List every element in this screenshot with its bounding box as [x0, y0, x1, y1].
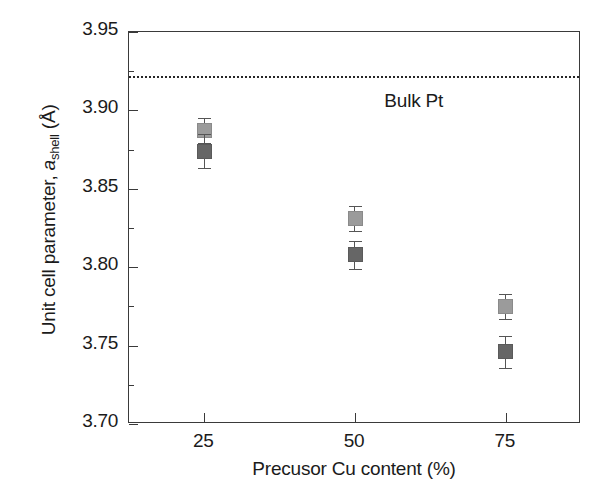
y-tick-major [129, 424, 138, 425]
x-tick-major [204, 413, 205, 422]
y-axis-title-suffix: (Å) [38, 104, 59, 134]
x-tick-major [506, 413, 507, 422]
y-axis-title-prefix: Unit cell parameter, [38, 170, 59, 335]
y-tick-minor [129, 228, 134, 229]
error-cap-lower [349, 269, 362, 270]
error-cap-lower [198, 168, 211, 169]
x-tick-label-50: 50 [319, 430, 389, 452]
error-cap-upper [198, 118, 211, 119]
plot-area: Bulk Pt [128, 31, 580, 423]
marker-square-light [498, 299, 513, 314]
error-cap-lower [349, 231, 362, 232]
error-cap-upper [198, 134, 211, 135]
figure-canvas: 3.95 3.90 3.85 3.80 3.75 3.70 25 50 75 P… [0, 0, 602, 498]
y-tick-major [129, 267, 138, 268]
marker-square-light [348, 211, 363, 226]
y-axis-title-subscript: shell [47, 134, 62, 160]
error-cap-upper [499, 336, 512, 337]
marker-square-dark [348, 247, 363, 262]
y-tick-minor [129, 306, 134, 307]
bulk-pt-label: Bulk Pt [384, 90, 443, 112]
y-axis-title-symbol: a [38, 160, 59, 170]
error-cap-upper [499, 294, 512, 295]
error-cap-upper [349, 206, 362, 207]
x-axis-title: Precusor Cu content (%) [128, 458, 580, 480]
marker-square-dark [498, 344, 513, 359]
marker-square-dark [197, 144, 212, 159]
x-tick-label-25: 25 [168, 430, 238, 452]
x-tick-label-75: 75 [470, 430, 540, 452]
y-tick-major [129, 32, 138, 33]
error-cap-lower [499, 319, 512, 320]
y-axis-title: Unit cell parameter, ashell (Å) [38, 10, 62, 430]
y-tick-major [129, 110, 138, 111]
y-tick-major [129, 346, 138, 347]
y-tick-minor [129, 150, 134, 151]
y-tick-minor [129, 71, 134, 72]
error-cap-upper [349, 241, 362, 242]
x-tick-major [355, 413, 356, 422]
y-tick-minor [129, 385, 134, 386]
error-cap-lower [499, 368, 512, 369]
y-tick-major [129, 189, 138, 190]
bulk-pt-reference-line [129, 76, 579, 78]
